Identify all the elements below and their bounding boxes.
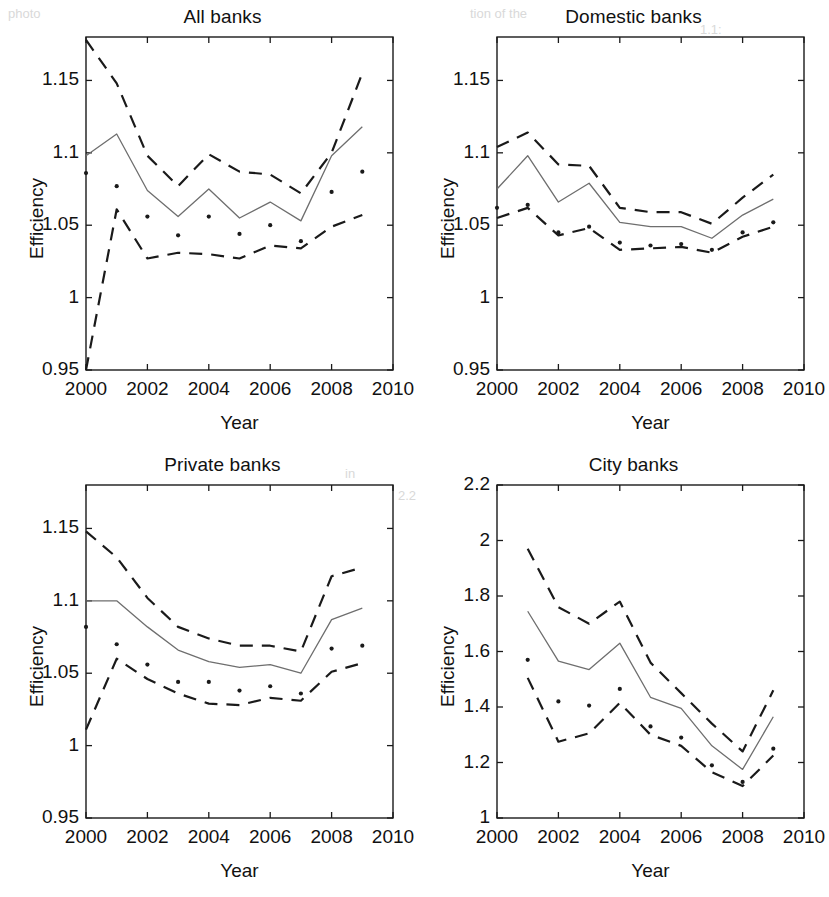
panel-all-banks: All banks 2000200220042006200820100.9511… [0, 0, 411, 448]
y-axis-label: Efficiency [26, 626, 48, 707]
tick-marks [497, 37, 804, 370]
panel-city-banks: City banks 20002002200420062008201011.21… [411, 448, 822, 897]
data-point [360, 644, 364, 648]
x-axis-label: Year [497, 860, 804, 882]
series-upper-bound-line [528, 549, 774, 752]
data-point [741, 780, 745, 784]
axes-frame [497, 485, 804, 818]
data-point [618, 687, 622, 691]
y-axis-label: Efficiency [437, 178, 459, 259]
series-mean-line [86, 127, 362, 221]
data-point [526, 658, 530, 662]
y-tick-label: 2.2 [411, 473, 490, 495]
y-tick-label: 1.1 [0, 141, 79, 163]
y-tick-label: 1 [0, 734, 79, 756]
axes-frame [86, 37, 393, 370]
axes-frame [86, 485, 393, 818]
y-tick-label: 0.95 [411, 358, 490, 380]
axes-frame [497, 37, 804, 370]
series-mean-line [528, 611, 774, 769]
panel-private-banks: Private banks 2000200220042006200820100.… [0, 448, 411, 897]
series-upper-bound-line [86, 531, 362, 651]
x-tick-label: 2010 [764, 826, 829, 848]
y-tick-label: 0.95 [0, 358, 79, 380]
series-mean-line [497, 156, 773, 239]
data-point [710, 763, 714, 767]
y-tick-label: 1.15 [411, 68, 490, 90]
y-tick-label: 1.8 [411, 584, 490, 606]
data-point [268, 223, 272, 227]
data-point [115, 184, 119, 188]
data-point [176, 233, 180, 237]
tick-marks [86, 37, 393, 370]
data-point [587, 704, 591, 708]
data-point [771, 220, 775, 224]
data-point [207, 680, 211, 684]
y-tick-label: 2 [411, 529, 490, 551]
y-tick-label: 1.2 [411, 751, 490, 773]
data-point [526, 203, 530, 207]
data-point [618, 240, 622, 244]
data-point [84, 171, 88, 175]
series-lower-bound-line [86, 209, 362, 370]
x-axis-label: Year [497, 412, 804, 434]
y-tick-label: 1 [411, 286, 490, 308]
x-tick-label: 2010 [764, 378, 829, 400]
data-point [556, 230, 560, 234]
data-point [330, 190, 334, 194]
data-point [84, 625, 88, 629]
data-point [237, 232, 241, 236]
data-point [771, 747, 775, 751]
data-point [299, 691, 303, 695]
data-point [207, 214, 211, 218]
plot-area: 2000200220042006200820100.9511.051.11.15… [0, 448, 411, 897]
data-point [679, 242, 683, 246]
data-point [115, 642, 119, 646]
y-axis-label: Efficiency [26, 178, 48, 259]
data-point [648, 243, 652, 247]
panel-domestic-banks: Domestic banks 2000200220042006200820100… [411, 0, 822, 448]
series-lower-bound-line [86, 659, 362, 730]
y-tick-label: 0.95 [0, 806, 79, 828]
plot-area: 2000200220042006200820100.9511.051.11.15… [411, 0, 822, 448]
y-axis-label: Efficiency [437, 626, 459, 707]
series-upper-bound-line [86, 40, 362, 193]
y-tick-label: 1.1 [411, 141, 490, 163]
y-tick-label: 1 [411, 806, 490, 828]
data-point [587, 225, 591, 229]
data-point [710, 248, 714, 252]
data-point [299, 239, 303, 243]
tick-marks [86, 485, 393, 818]
data-point [237, 688, 241, 692]
y-tick-label: 1.1 [0, 589, 79, 611]
series-lower-bound-line [497, 208, 773, 253]
data-point [176, 680, 180, 684]
data-point [360, 170, 364, 174]
data-point [556, 699, 560, 703]
plot-area: 2000200220042006200820100.9511.051.11.15… [0, 0, 411, 448]
x-axis-label: Year [86, 412, 393, 434]
series-upper-bound-line [497, 133, 773, 224]
y-tick-label: 1 [0, 286, 79, 308]
y-tick-label: 1.15 [0, 68, 79, 90]
tick-marks [497, 485, 804, 818]
x-axis-label: Year [86, 860, 393, 882]
data-point [679, 735, 683, 739]
plot-area: 20002002200420062008201011.21.41.61.822.… [411, 448, 822, 897]
data-point [268, 684, 272, 688]
data-point [495, 206, 499, 210]
data-point [741, 230, 745, 234]
series-mean-line [86, 601, 362, 673]
series-lower-bound-line [528, 678, 774, 786]
y-tick-label: 1.15 [0, 516, 79, 538]
data-point [145, 662, 149, 666]
data-point [145, 214, 149, 218]
data-point [330, 647, 334, 651]
data-point [648, 724, 652, 728]
